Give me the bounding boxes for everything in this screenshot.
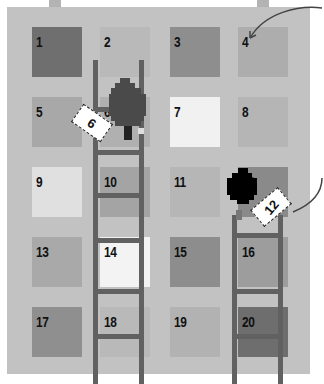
cell-number: 11 [174,174,186,190]
ladder-left-rung [93,334,144,339]
ladder-right-rung [232,233,283,238]
board-cell-4[interactable]: 4 [238,27,288,77]
ladder-left-rung [93,107,144,112]
cell-number: 20 [242,314,254,330]
board-cell-3[interactable]: 3 [170,27,220,77]
cell-number: 19 [174,314,186,330]
ladder-left-rung [93,150,144,155]
cell-number: 3 [174,34,180,50]
cell-number: 5 [36,104,42,120]
card-6-label: 6 [85,115,100,131]
cell-number: 15 [174,244,186,260]
cell-number: 9 [36,174,42,190]
board-cell-7[interactable]: 7 [170,97,220,147]
cell-number: 4 [242,34,248,50]
cell-number: 1 [36,34,42,50]
cell-number: 10 [104,174,116,190]
cell-number: 13 [36,244,48,260]
board-cell-8[interactable]: 8 [238,97,288,147]
ladder-right-rung [232,289,283,294]
board-cell-11[interactable]: 11 [170,167,220,217]
cell-number: 7 [174,104,180,120]
board-cell-1[interactable]: 1 [32,27,82,77]
board-cell-17[interactable]: 17 [32,307,82,357]
cell-number: 17 [36,314,48,330]
board-cell-9[interactable]: 9 [32,167,82,217]
card-12-label: 12 [261,197,282,218]
ladder-left-rung [93,289,144,294]
cell-number: 16 [242,244,254,260]
board-cell-15[interactable]: 15 [170,237,220,287]
cell-number: 2 [104,34,110,50]
cell-number: 14 [104,244,116,260]
board-cell-13[interactable]: 13 [32,237,82,287]
ladder-right-rail-2 [278,215,283,384]
cell-number: 12 [242,174,254,190]
board-cell-19[interactable]: 19 [170,307,220,357]
cell-number: 18 [104,314,116,330]
ladder-right-rung [232,334,283,339]
cell-number: 8 [242,104,248,120]
ladder-left-rung [93,193,144,198]
ladder-left-rung [93,238,144,243]
ladder-right-rail-1 [232,215,237,384]
